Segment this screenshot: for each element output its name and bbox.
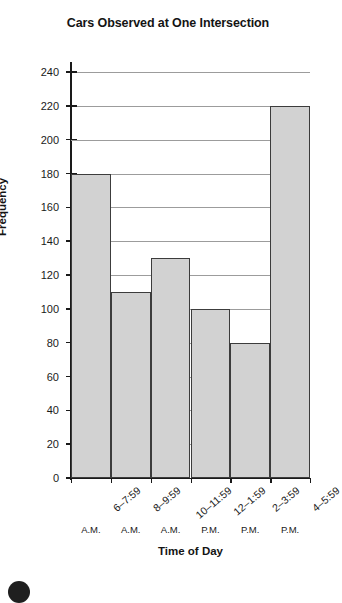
x-axis-tick-mark xyxy=(71,478,72,483)
x-axis-period-label: P.M. xyxy=(241,524,259,535)
x-axis-period-label: A.M. xyxy=(121,524,141,535)
x-axis-tick-label: 6–7:59 xyxy=(110,484,142,514)
x-axis-period-label: P.M. xyxy=(201,524,219,535)
y-axis-tick-label: 180 xyxy=(13,168,59,180)
x-axis-tick-label: 8–9:59 xyxy=(150,484,182,514)
y-axis-tick-label: 40 xyxy=(13,404,59,416)
x-axis-tick-labels: 6–7:598–9:5910–11:5912–1:592–3:594–5:59 xyxy=(71,484,321,524)
x-axis-tick-mark xyxy=(191,478,192,483)
y-axis-tick-label: 220 xyxy=(13,100,59,112)
y-axis-tick-mark xyxy=(66,105,77,107)
x-axis-period-labels: A.M.A.M.A.M.P.M.P.M.P.M. xyxy=(71,524,310,538)
y-axis-tick-labels: 240220200180160140120100806040200 xyxy=(13,72,59,478)
x-axis-period-label: P.M. xyxy=(281,524,299,535)
y-axis-tick-label: 80 xyxy=(13,337,59,349)
bar xyxy=(71,174,111,479)
bar xyxy=(230,343,270,478)
y-axis-tick-label: 140 xyxy=(13,235,59,247)
x-axis-tick-mark xyxy=(151,478,152,483)
y-axis-tick-label: 60 xyxy=(13,371,59,383)
gridline xyxy=(71,72,310,73)
y-axis-tick-mark xyxy=(66,139,77,141)
y-axis-title: Frequency xyxy=(0,178,8,236)
x-axis-tick-mark xyxy=(310,478,311,483)
x-axis-period-label: A.M. xyxy=(161,524,181,535)
y-axis-tick-label: 100 xyxy=(13,303,59,315)
x-axis-tick-label: 4–5:59 xyxy=(310,484,342,514)
x-axis-tick-label: 2–3:59 xyxy=(270,484,302,514)
bar xyxy=(270,106,310,478)
y-axis-tick-mark xyxy=(66,71,77,73)
y-axis-tick-label: 0 xyxy=(13,472,59,484)
y-axis-tick-label: 20 xyxy=(13,438,59,450)
chart-title: Cars Observed at One Intersection xyxy=(0,16,336,30)
bar xyxy=(111,292,151,478)
x-axis-title: Time of Day xyxy=(71,545,310,557)
x-axis-tick-mark xyxy=(270,478,271,483)
bar xyxy=(151,258,191,478)
y-axis-tick-label: 120 xyxy=(13,269,59,281)
y-axis-tick-label: 160 xyxy=(13,201,59,213)
bar xyxy=(191,309,231,478)
page-marker-circle xyxy=(8,581,30,603)
y-axis-tick-label: 200 xyxy=(13,134,59,146)
x-axis-period-label: A.M. xyxy=(81,524,101,535)
x-axis-tick-mark xyxy=(111,478,112,483)
y-axis-tick-label: 240 xyxy=(13,66,59,78)
plot-area xyxy=(71,72,310,478)
x-axis-tick-label: 12–1:59 xyxy=(231,484,268,518)
x-axis-tick-label: 10–11:59 xyxy=(193,484,234,521)
x-axis-tick-mark xyxy=(230,478,231,483)
